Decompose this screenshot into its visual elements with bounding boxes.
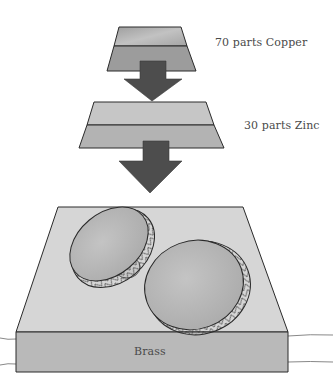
copper-label: 70 parts Copper (215, 36, 307, 49)
arrow-down-icon (119, 141, 182, 193)
brass-label: Brass (134, 345, 166, 358)
zinc-label: 30 parts Zinc (244, 119, 320, 132)
brass-composition-diagram (0, 0, 333, 391)
